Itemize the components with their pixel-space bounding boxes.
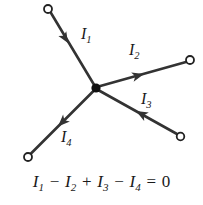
branch-I2 — [99, 56, 195, 87]
equation-right-hand-side: 0 — [162, 172, 171, 191]
equation-term-3: I3 — [97, 172, 108, 191]
equation-equals-sign: = — [145, 172, 158, 191]
branch-I4 — [24, 91, 94, 162]
branch-I2-terminal — [186, 56, 194, 64]
branch-label-I1: I1 — [81, 26, 92, 46]
branch-I4-terminal — [24, 153, 32, 161]
junction-diagram — [0, 0, 203, 175]
junction-node — [91, 83, 100, 92]
branch-label-I2: I2 — [129, 42, 140, 62]
branch-label-I4: I4 — [61, 129, 72, 149]
kirchhoff-current-law-equation: I1 − I2 + I3 − I4 = 0 — [0, 172, 203, 193]
equation-term-2: I2 — [65, 172, 76, 191]
branch-I1-wire — [51, 13, 95, 86]
equation-operator-1: − — [48, 172, 61, 191]
equation-operator-2: + — [80, 172, 93, 191]
figure-container: I1 I2 I3 I4 I1 − I2 + I3 − I4 = 0 — [0, 0, 203, 205]
equation-operator-3: − — [113, 172, 126, 191]
branch-label-I3: I3 — [141, 91, 152, 111]
equation-term-4: I4 — [130, 172, 141, 191]
branch-I3-terminal — [177, 133, 185, 141]
equation-term-1: I1 — [33, 172, 44, 191]
branch-I1-terminal — [44, 5, 52, 13]
